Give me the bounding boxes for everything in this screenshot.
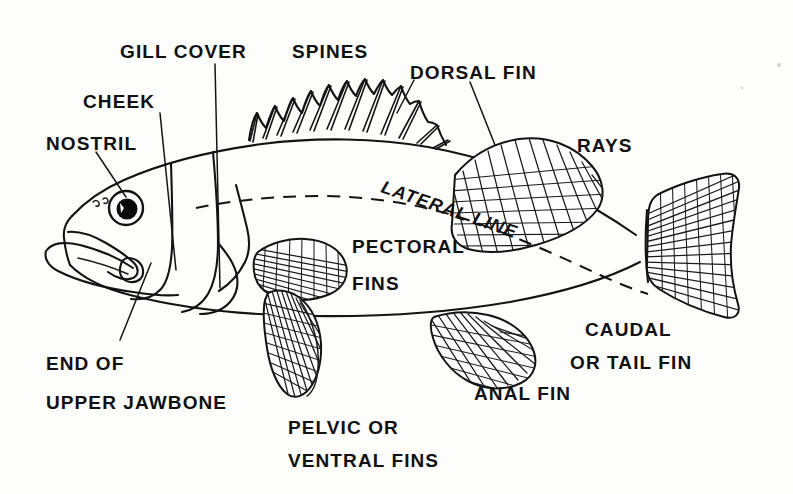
caudal-fin xyxy=(645,164,742,326)
fish-diagram-canvas: NOSTRIL CHEEK GILL COVER SPINES DORSAL F… xyxy=(0,0,793,494)
leader-nostril xyxy=(96,152,126,197)
label-anal-fin: ANAL FIN xyxy=(474,383,571,404)
leader-cheek xyxy=(160,113,176,270)
spiny-dorsal-fin xyxy=(249,79,450,149)
scan-speck xyxy=(741,87,744,90)
label-caudal-fin-line1: CAUDAL xyxy=(585,319,672,340)
label-cheek: CHEEK xyxy=(83,91,155,112)
leader-dorsal-fin-soft xyxy=(470,82,495,145)
label-spines: SPINES xyxy=(292,41,368,62)
scan-speck xyxy=(777,63,781,67)
label-end-of-upper-jawbone-line1: END OF xyxy=(46,353,124,374)
anal-fin xyxy=(426,311,542,394)
label-dorsal-fin: DORSAL FIN xyxy=(410,62,537,83)
fish-anatomy-diagram: NOSTRIL CHEEK GILL COVER SPINES DORSAL F… xyxy=(0,0,793,494)
label-pectoral-fins-line1: PECTORAL xyxy=(352,236,465,257)
label-caudal-fin-line2: OR TAIL FIN xyxy=(570,352,692,373)
label-gill-cover: GILL COVER xyxy=(120,41,247,62)
fish-nostril-marks xyxy=(93,198,108,206)
label-rays: RAYS xyxy=(577,135,632,156)
leader-end-of-upper-jawbone xyxy=(120,263,151,340)
label-pectoral-fins-line2: FINS xyxy=(352,273,400,294)
label-pelvic-fins-line2: VENTRAL FINS xyxy=(288,450,439,471)
pelvic-fin xyxy=(258,287,330,402)
label-end-of-upper-jawbone-line2: UPPER JAWBONE xyxy=(46,392,227,413)
label-pelvic-fins-line1: PELVIC OR xyxy=(288,417,399,438)
fish-eye-pupil xyxy=(117,199,138,220)
label-nostril: NOSTRIL xyxy=(46,133,137,154)
